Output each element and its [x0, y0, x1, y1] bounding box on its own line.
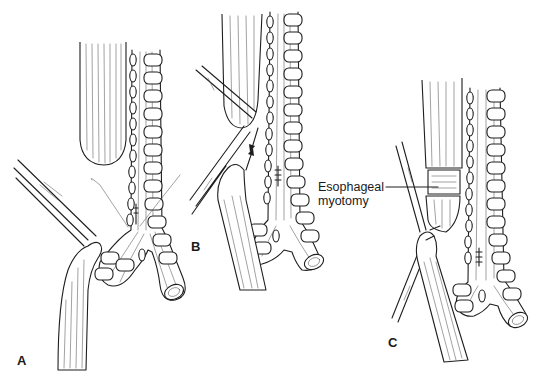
myotomy-callout-label: Esophageal myotomy [318, 180, 384, 208]
surgical-figure: A B C Esophageal myotomy [0, 0, 548, 386]
forceps-c [392, 142, 426, 322]
panel-label-c: C [388, 335, 397, 350]
upper-esophageal-pouch-a [80, 42, 126, 165]
panel-label-a: A [17, 353, 26, 368]
myotomy-label-line1: Esophageal [318, 180, 384, 194]
panel-a-drawing [14, 42, 186, 370]
panel-label-b: B [191, 239, 200, 254]
panel-c-drawing [386, 78, 530, 362]
upper-esophageal-pouch-b [222, 14, 262, 128]
panel-b-drawing [190, 12, 326, 290]
lower-esophagus-a [58, 242, 102, 370]
upper-esophageal-pouch-c [422, 78, 462, 232]
myotomy-label-line2: myotomy [318, 194, 384, 208]
trachea-c [453, 88, 530, 331]
forceps-a [14, 160, 96, 246]
